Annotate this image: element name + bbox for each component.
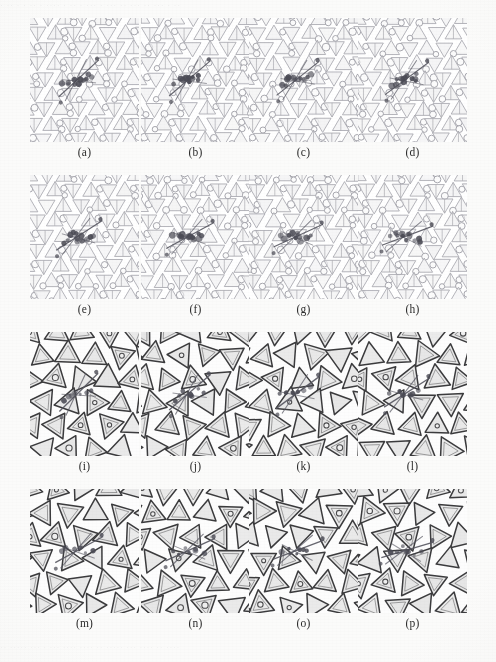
lattice-image-l — [358, 332, 467, 456]
lattice-image-g — [249, 175, 358, 299]
panel-a — [30, 18, 139, 142]
panel-i — [30, 332, 139, 456]
lattice-tiling-m — [30, 489, 139, 613]
lattice-image-n — [141, 489, 250, 613]
lattice-tiling-k — [249, 332, 358, 456]
lattice-image-k — [249, 332, 358, 456]
panel-label-b: (b) — [141, 146, 250, 158]
lattice-image-c — [249, 18, 358, 142]
panel-e — [30, 175, 139, 299]
panel-l — [358, 332, 467, 456]
panel-label-c: (c) — [249, 146, 358, 158]
lattice-tiling-h — [358, 175, 467, 299]
lattice-image-i — [30, 332, 139, 456]
figure-panel-grid: (a)(b)(c)(d)(e)(f)(g)(h)(i)(j)(k)(l)(m)(… — [0, 0, 496, 662]
panel-label-f: (f) — [141, 303, 250, 315]
lattice-image-a — [30, 18, 139, 142]
lattice-image-h — [358, 175, 467, 299]
panel-label-e: (e) — [30, 303, 139, 315]
lattice-image-b — [141, 18, 250, 142]
panel-j — [141, 332, 250, 456]
panel-b — [141, 18, 250, 142]
lattice-image-o — [249, 489, 358, 613]
panel-label-l: (l) — [358, 460, 467, 472]
panel-c — [249, 18, 358, 142]
panel-n — [141, 489, 250, 613]
panel-label-j: (j) — [141, 460, 250, 472]
panel-o — [249, 489, 358, 613]
lattice-image-m — [30, 489, 139, 613]
lattice-tiling-e — [30, 175, 139, 299]
panel-p — [358, 489, 467, 613]
panel-label-h: (h) — [358, 303, 467, 315]
panel-label-i: (i) — [30, 460, 139, 472]
lattice-image-d — [358, 18, 467, 142]
panel-d — [358, 18, 467, 142]
panel-m — [30, 489, 139, 613]
lattice-tiling-p — [358, 489, 467, 613]
panel-label-m: (m) — [30, 617, 139, 629]
panel-label-g: (g) — [249, 303, 358, 315]
lattice-image-e — [30, 175, 139, 299]
panel-label-o: (o) — [249, 617, 358, 629]
lattice-tiling-b — [141, 18, 250, 142]
panel-f — [141, 175, 250, 299]
panel-label-d: (d) — [358, 146, 467, 158]
panel-k — [249, 332, 358, 456]
lattice-image-f — [141, 175, 250, 299]
panel-label-n: (n) — [141, 617, 250, 629]
panel-g — [249, 175, 358, 299]
panel-label-k: (k) — [249, 460, 358, 472]
panel-h — [358, 175, 467, 299]
lattice-image-p — [358, 489, 467, 613]
panel-label-a: (a) — [30, 146, 139, 158]
lattice-tiling-i — [30, 332, 139, 456]
lattice-image-j — [141, 332, 250, 456]
lattice-tiling-j — [141, 332, 250, 456]
panel-label-p: (p) — [358, 617, 467, 629]
